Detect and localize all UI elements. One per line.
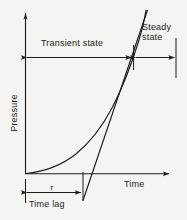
transient-state-label: Transient state (41, 38, 103, 48)
pressure-vs-time-figure: Transient state Steady state Pressure Ti… (0, 0, 187, 220)
time-lag-label: Time lag (29, 199, 65, 209)
pressure-response-curve (26, 10, 146, 174)
y-axis-label: Pressure (9, 83, 19, 143)
x-axis-label: Time (124, 179, 144, 189)
tau-symbol-label: τ (50, 183, 53, 192)
steady-state-label: Steady state (142, 22, 176, 42)
